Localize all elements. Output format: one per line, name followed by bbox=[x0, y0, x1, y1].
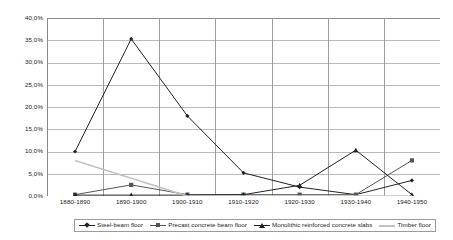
legend-entry[interactable]: Monolithic reinforced concrete slabs bbox=[254, 221, 373, 230]
x-tick-label: 1930-1940 bbox=[328, 199, 384, 205]
y-tick-label: 40,0% bbox=[3, 15, 43, 21]
x-tick-label: 1880-1890 bbox=[47, 199, 103, 205]
data-point bbox=[410, 158, 414, 162]
data-point bbox=[129, 183, 133, 187]
legend-swatch-diamond-icon bbox=[79, 221, 95, 230]
legend-label: Steel-beam floor bbox=[97, 222, 143, 228]
y-tick-label: 15,0% bbox=[3, 126, 43, 132]
legend-swatch-triangle-icon bbox=[254, 221, 270, 230]
y-tick-label: 30,0% bbox=[3, 59, 43, 65]
x-tick-label: 1900-1910 bbox=[159, 199, 215, 205]
y-tick-label: 20,0% bbox=[3, 104, 43, 110]
x-tick-label: 1920-1930 bbox=[272, 199, 328, 205]
chart-container: 0,0%5,0%10,0%15,0%20,0%25,0%30,0%35,0%40… bbox=[0, 0, 453, 240]
legend-swatch-none-icon bbox=[379, 221, 395, 230]
y-tick-label: 5,0% bbox=[3, 171, 43, 177]
y-tick-label: 0,0% bbox=[3, 193, 43, 199]
plot-area bbox=[47, 18, 440, 196]
legend-entry[interactable]: Precast concrete beam floor bbox=[150, 221, 247, 230]
x-tick-label: 1890-1900 bbox=[103, 199, 159, 205]
legend-label: Precast concrete beam floor bbox=[168, 222, 247, 228]
series-0 bbox=[73, 37, 414, 196]
y-tick-label: 35,0% bbox=[3, 37, 43, 43]
y-tick-label: 25,0% bbox=[3, 82, 43, 88]
x-tick-label: 1940-1950 bbox=[384, 199, 440, 205]
data-point bbox=[353, 148, 358, 153]
legend-label: Monolithic reinforced concrete slabs bbox=[272, 222, 373, 228]
chart-plot-svg bbox=[47, 18, 440, 196]
x-axis: 1880-18901890-19001900-19101910-19201920… bbox=[47, 199, 440, 211]
legend-entry[interactable]: Timber floor bbox=[379, 221, 430, 230]
series-1 bbox=[73, 158, 414, 196]
legend-entry[interactable]: Steel-beam floor bbox=[79, 221, 143, 230]
legend-swatch-square-icon bbox=[150, 221, 166, 230]
legend-label: Timber floor bbox=[397, 222, 430, 228]
y-tick-label: 10,0% bbox=[3, 148, 43, 154]
data-point bbox=[410, 178, 414, 182]
chart-legend: Steel-beam floorPrecast concrete beam fl… bbox=[74, 219, 436, 232]
x-tick-label: 1910-1920 bbox=[215, 199, 271, 205]
